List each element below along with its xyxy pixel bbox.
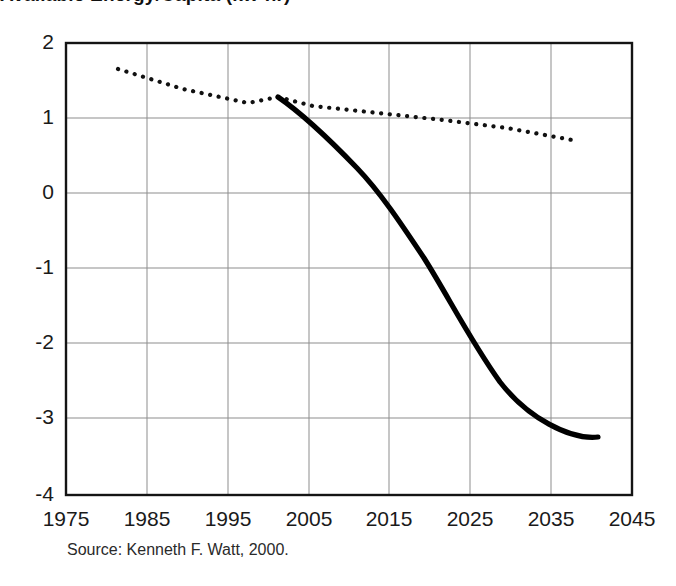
x-tick-label-1985: 1985	[107, 507, 187, 531]
x-tick-label-2045: 2045	[592, 507, 672, 531]
x-tick-label-2015: 2015	[349, 507, 429, 531]
x-tick-label-2005: 2005	[269, 507, 349, 531]
x-tick-label-2035: 2035	[511, 507, 591, 531]
y-tick-label-0: 0	[6, 180, 54, 204]
x-tick-label-1995: 1995	[188, 507, 268, 531]
y-tick-label-1: 1	[6, 105, 54, 129]
plot-background	[66, 43, 632, 495]
y-tick-label-2: 2	[6, 30, 54, 54]
y-tick-label-neg2: -2	[6, 330, 54, 354]
y-tick-label-neg3: -3	[6, 405, 54, 429]
source-note: Source: Kenneth F. Watt, 2000.	[67, 541, 289, 559]
x-tick-label-2025: 2025	[430, 507, 510, 531]
y-tick-label-neg1: -1	[6, 255, 54, 279]
chart-figure: Available Energy/Capita (kw-hr) 2	[0, 0, 676, 586]
x-tick-label-1975: 1975	[26, 507, 106, 531]
plot-area	[0, 0, 676, 586]
y-tick-label-neg4: -4	[6, 482, 54, 506]
